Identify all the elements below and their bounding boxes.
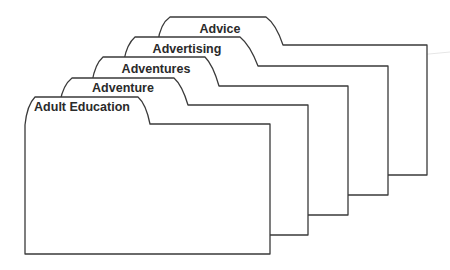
folder-label: Adult Education xyxy=(34,100,130,114)
folder-label: Adventures xyxy=(122,62,191,76)
folder-stack: Advice Advertising Adventures Adventure … xyxy=(0,0,450,270)
folder-label: Advertising xyxy=(153,42,222,56)
folder-label: Advice xyxy=(200,22,241,36)
folder-label: Adventure xyxy=(92,81,154,95)
